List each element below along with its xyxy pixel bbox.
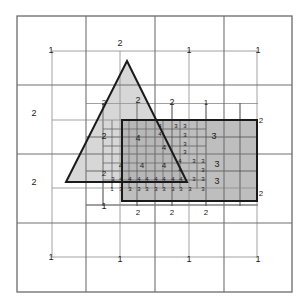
- refinement-level-label-3: 3: [211, 131, 216, 141]
- refinement-level-label-1: 1: [117, 254, 122, 264]
- diagram-canvas: 1211222122444333334322244444333334444444…: [0, 0, 307, 308]
- refinement-level-label-3: 3: [214, 176, 219, 186]
- refinement-level-label-3: 3: [214, 159, 219, 169]
- quadtree-mesh-svg: 1211222122444333334322244444333334444444…: [0, 0, 307, 308]
- refinement-level-label-4: 4: [119, 161, 124, 170]
- refinement-level-label-2: 2: [102, 169, 107, 178]
- refinement-level-label-2: 2: [117, 38, 122, 48]
- refinement-level-label-1: 1: [48, 45, 53, 55]
- refinement-level-label-1: 1: [255, 254, 260, 264]
- refinement-level-label-2: 2: [135, 95, 140, 105]
- refinement-level-label-1: 1: [186, 45, 191, 55]
- refinement-level-label-4: 4: [135, 133, 140, 143]
- refinement-level-label-1: 1: [204, 98, 209, 107]
- refinement-level-label-2: 2: [259, 189, 264, 198]
- refinement-level-label-1: 1: [186, 254, 191, 264]
- refinement-level-label-2: 2: [31, 108, 36, 118]
- refinement-level-label-2: 2: [259, 116, 264, 125]
- refinement-level-label-4: 4: [162, 143, 167, 152]
- refinement-level-label-1: 1: [101, 201, 106, 211]
- refinement-level-label-2: 2: [170, 208, 175, 217]
- refinement-level-label-2: 2: [169, 97, 174, 107]
- refinement-level-label-4: 4: [162, 161, 167, 170]
- refinement-level-label-2: 2: [31, 177, 36, 187]
- refinement-level-label-1: 1: [48, 252, 53, 262]
- refinement-level-label-1: 1: [255, 45, 260, 55]
- refinement-level-label-2: 2: [102, 98, 107, 107]
- refinement-level-label-2: 2: [136, 208, 141, 217]
- refinement-level-label-4: 4: [140, 161, 145, 170]
- refinement-level-label-2: 2: [101, 131, 106, 141]
- refinement-level-label-2: 2: [204, 208, 209, 217]
